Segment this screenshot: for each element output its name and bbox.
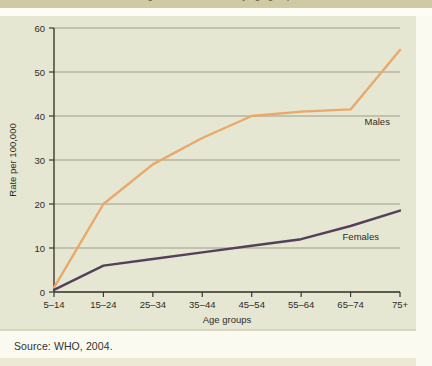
- y-tick-label: 50: [34, 67, 45, 78]
- y-axis-title: Rate per 100,000: [7, 123, 18, 196]
- footer-divider: [0, 329, 416, 331]
- top-caption-band: Figure 1. Suicide rates by age group: [0, 0, 432, 8]
- x-tick-label: 65–74: [337, 299, 363, 310]
- y-tick-label: 60: [34, 23, 45, 34]
- x-tick-label: 75+: [392, 299, 409, 310]
- x-tick-label: 55–64: [288, 299, 314, 310]
- y-tick-label: 40: [34, 111, 45, 122]
- series-line-males: [54, 50, 400, 288]
- series-line-females: [54, 211, 400, 290]
- footer-band: [0, 358, 416, 366]
- y-tick-label: 20: [34, 199, 45, 210]
- x-axis-title: Age groups: [203, 314, 252, 325]
- line-chart: 01020304050605–1415–2425–3435–4445–5455–…: [0, 16, 432, 329]
- y-tick-label: 30: [34, 155, 45, 166]
- chart-figure: Figure 1. Suicide rates by age group 010…: [0, 0, 432, 366]
- y-tick-label: 10: [34, 243, 45, 254]
- series-label-females: Females: [343, 231, 380, 242]
- x-tick-label: 15–24: [90, 299, 116, 310]
- caption-gap: [0, 8, 432, 16]
- source-text: Source: WHO, 2004.: [14, 340, 113, 352]
- series-label-males: Males: [365, 116, 391, 127]
- x-tick-label: 35–44: [189, 299, 215, 310]
- x-tick-label: 45–54: [239, 299, 265, 310]
- y-tick-label: 0: [40, 287, 45, 298]
- top-caption-text: Figure 1. Suicide rates by age group: [0, 0, 432, 7]
- x-tick-label: 5–14: [43, 299, 64, 310]
- x-tick-label: 25–34: [140, 299, 166, 310]
